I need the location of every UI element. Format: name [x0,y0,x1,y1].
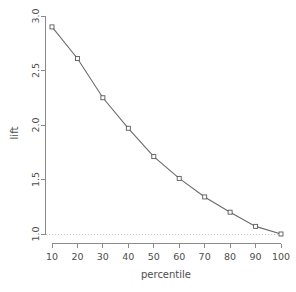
lift-chart: 1.01.52.02.53.0 102030405060708090100 li… [0,0,296,292]
data-point [101,96,105,100]
data-point [177,176,181,180]
y-axis-ticks [41,16,46,234]
y-axis-tick-labels: 1.01.52.02.53.0 [30,8,41,241]
y-tick-label: 2.5 [30,63,41,78]
lift-series-line [52,27,281,234]
chart-canvas: 1.01.52.02.53.0 102030405060708090100 li… [0,0,296,292]
y-axis-title: lift [9,127,20,140]
data-point [50,25,54,29]
x-axis-ticks [52,244,281,249]
data-point [126,126,130,130]
data-point [152,155,156,159]
x-axis-title: percentile [141,269,191,280]
data-point [203,195,207,199]
lift-series-points [50,25,283,236]
x-tick-label: 40 [122,251,134,262]
x-tick-label: 20 [71,251,83,262]
y-tick-label: 1.5 [30,172,41,187]
data-point [75,57,79,61]
x-tick-label: 80 [224,251,236,262]
y-tick-label: 2.0 [30,117,41,132]
data-point [228,210,232,214]
x-tick-label: 70 [199,251,211,262]
x-tick-label: 30 [97,251,109,262]
data-point [279,232,283,236]
data-point [254,224,258,228]
x-tick-label: 60 [173,251,185,262]
y-tick-label: 3.0 [30,8,41,23]
x-tick-label: 10 [46,251,58,262]
x-tick-label: 50 [148,251,160,262]
x-tick-label: 90 [250,251,262,262]
y-tick-label: 1.0 [30,226,41,241]
x-axis-tick-labels: 102030405060708090100 [46,251,290,262]
x-tick-label: 100 [272,251,290,262]
